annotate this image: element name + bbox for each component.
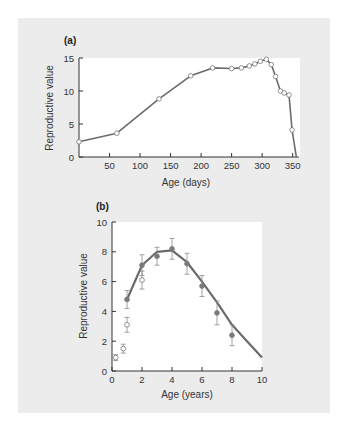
open-circle-marker [113,355,118,360]
filled-circle-marker [140,263,145,268]
x-tick-label: 300 [254,160,270,171]
open-circle-marker [282,91,287,96]
open-circle-marker [140,278,145,283]
x-tick-label: 2 [139,374,144,385]
open-circle-marker [273,74,278,79]
y-tick-label: 10 [63,86,74,97]
chart-b-y-axis-title: Reproductive value [78,253,89,339]
y-tick-label: 0 [69,152,74,163]
filled-circle-marker [155,254,160,259]
figure: (a) 50100150200250300350051015 Age (days… [0,0,338,423]
x-tick-label: 4 [169,374,174,385]
filled-circle-marker [185,261,190,266]
chart-b-panel-label: (b) [96,201,109,212]
filled-circle-marker [170,246,175,251]
chart-a-y-axis-title: Reproductive value [44,65,55,151]
x-tick-label: 8 [229,374,234,385]
chart-b-plot-area [112,222,262,371]
open-circle-marker [253,62,258,67]
filled-circle-marker [230,333,235,338]
filled-circle-marker [200,284,205,289]
y-tick-label: 2 [102,336,107,347]
x-tick-label: 350 [285,160,301,171]
chart-b: (b) 02468100246810 Age (years) Reproduct… [78,201,267,400]
open-circle-marker [239,66,244,71]
y-tick-label: 10 [96,217,107,228]
open-circle-marker [247,64,252,69]
filled-circle-marker [125,297,130,302]
y-tick-label: 15 [63,53,74,64]
chart-a-x-axis-title: Age (days) [162,177,210,188]
chart-a-panel-label: (a) [64,35,76,46]
y-tick-label: 0 [102,366,107,377]
x-tick-label: 100 [132,160,148,171]
open-circle-marker [125,322,130,327]
chart-a: (a) 50100150200250300350051015 Age (days… [44,35,301,188]
open-circle-marker [287,93,292,98]
x-tick-label: 10 [257,374,268,385]
open-circle-marker [229,66,234,71]
x-tick-label: 0 [109,374,114,385]
open-circle-marker [258,59,263,64]
y-tick-label: 4 [102,306,107,317]
filled-circle-marker [215,310,220,315]
chart-b-x-axis-title: Age (years) [161,389,213,400]
y-tick-label: 5 [69,119,74,130]
x-tick-label: 150 [163,160,179,171]
y-tick-label: 6 [102,276,107,287]
open-circle-marker [264,57,269,62]
open-circle-marker [269,62,274,67]
x-tick-label: 50 [104,160,115,171]
x-tick-label: 250 [224,160,240,171]
open-circle-marker [77,140,82,145]
x-tick-label: 200 [193,160,209,171]
open-circle-marker [188,74,193,79]
x-tick-label: 6 [199,374,204,385]
open-circle-marker [210,66,215,71]
open-circle-marker [115,131,120,136]
open-circle-marker [157,97,162,102]
open-circle-marker [121,346,126,351]
chart-a-plot-area [79,58,300,157]
open-circle-marker [290,128,295,133]
y-tick-label: 8 [102,246,107,257]
